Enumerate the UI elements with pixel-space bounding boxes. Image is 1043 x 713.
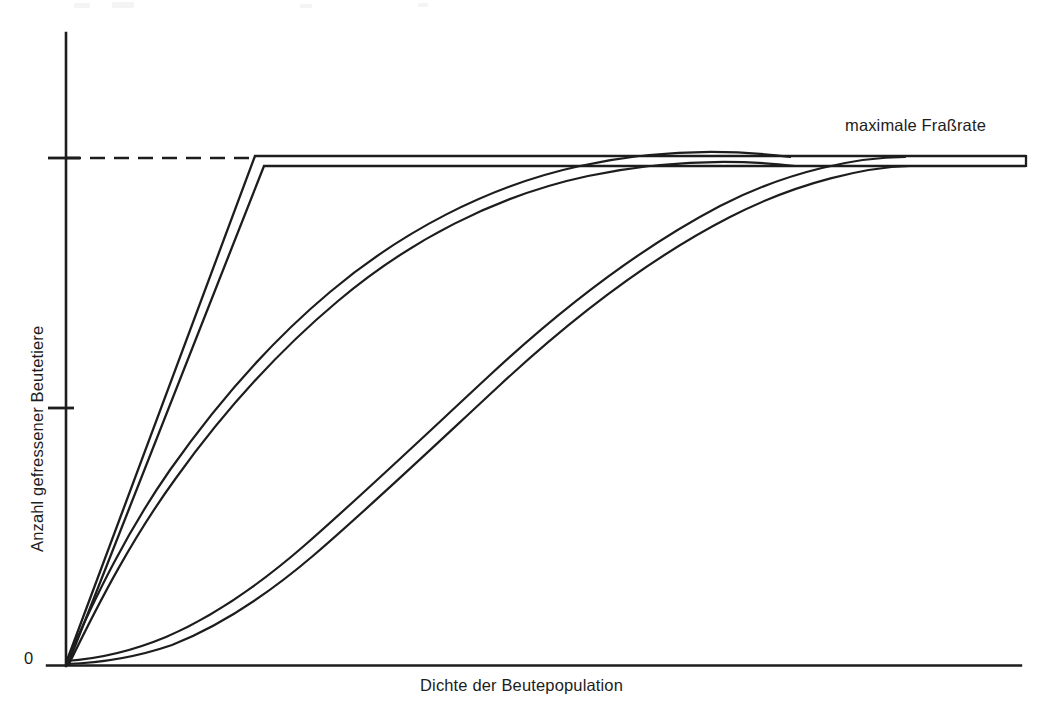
- series-typ-ii: [66, 152, 795, 664]
- x-axis-title: Dichte der Beutepopulation: [0, 676, 1043, 695]
- series-typ-i: [66, 155, 1026, 664]
- functional-response-figure: Anzahl gefressener Beutetiere Dichte der…: [0, 0, 1043, 713]
- series-typ-iii: [66, 157, 910, 664]
- y-axis-title: Anzahl gefressener Beutetiere: [0, 0, 1, 1]
- x-axis-title-text: Dichte der Beutepopulation: [420, 676, 623, 695]
- chart-canvas: [0, 0, 1043, 713]
- max-rate-annotation: maximale Fraßrate: [845, 116, 986, 135]
- y-axis-title-text: Anzahl gefressener Beutetiere: [28, 326, 47, 552]
- origin-tick-label: 0: [24, 649, 33, 668]
- y-axis-ticks: [48, 158, 80, 408]
